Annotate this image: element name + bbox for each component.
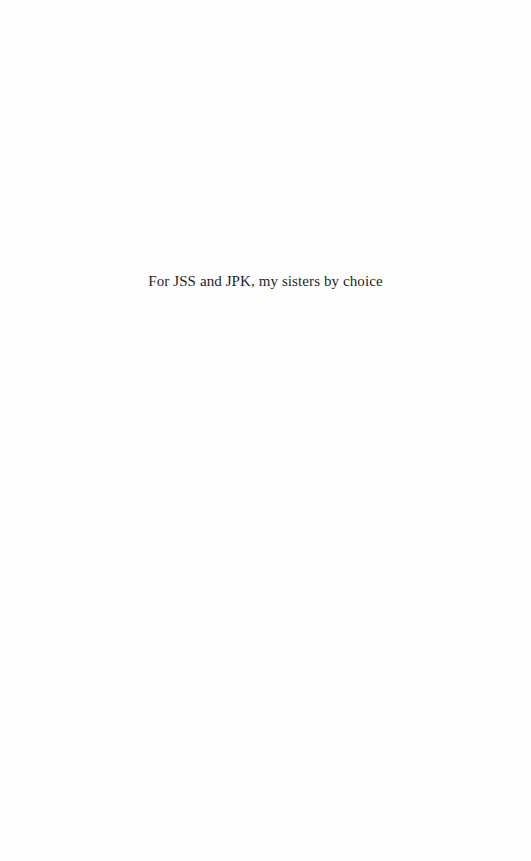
book-page: For JSS and JPK, my sisters by choice [0,0,531,861]
dedication-text: For JSS and JPK, my sisters by choice [0,272,531,290]
